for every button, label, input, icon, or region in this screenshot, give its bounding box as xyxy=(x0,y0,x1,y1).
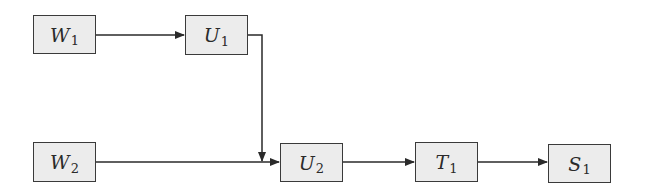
node-w2-label: W xyxy=(50,151,70,173)
node-t1-label: T xyxy=(436,151,449,173)
node-u2: U2 xyxy=(280,143,343,182)
node-w1-subscript: 1 xyxy=(71,33,79,48)
node-w1-label: W xyxy=(50,24,70,46)
node-u2-label: U xyxy=(299,152,315,174)
node-w2: W2 xyxy=(33,142,96,182)
node-t1-subscript: 1 xyxy=(449,161,457,176)
node-u1-label: U xyxy=(204,24,220,46)
node-u2-subscript: 2 xyxy=(316,161,324,176)
node-u1-subscript: 1 xyxy=(221,34,229,49)
node-t1: T1 xyxy=(415,142,478,182)
node-w2-subscript: 2 xyxy=(71,161,79,176)
edge-u1-u2 xyxy=(248,35,262,161)
node-s1: S1 xyxy=(548,144,611,183)
node-u1: U1 xyxy=(185,15,248,55)
node-s1-label: S xyxy=(568,153,581,175)
node-s1-subscript: 1 xyxy=(582,162,590,177)
node-w1: W1 xyxy=(33,15,96,54)
